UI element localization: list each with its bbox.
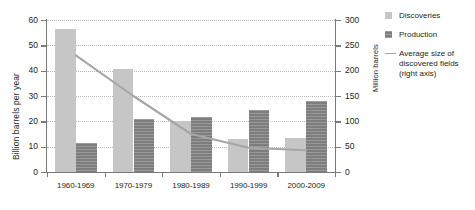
legend-label-average-size: Average size of discovered fields (right… <box>399 49 459 79</box>
legend-label-average-size-line2: discovered fields <box>399 59 459 69</box>
y-axis-right-tick <box>335 96 341 97</box>
y-axis-left-tick-label: 0 <box>33 168 38 177</box>
x-axis-tick-label: 1990-1999 <box>220 181 278 190</box>
x-axis-tick <box>47 172 48 177</box>
x-axis-tick-label: 2000-2009 <box>277 181 335 190</box>
y-axis-left-tick-label: 40 <box>29 66 38 75</box>
x-axis-tick-label: 1980-1989 <box>162 181 220 190</box>
y-axis-right-tick-label: 200 <box>345 66 359 75</box>
legend-item-production: Production <box>385 30 473 40</box>
y-axis-right-tick <box>335 121 341 122</box>
y-axis-right-tick <box>335 71 341 72</box>
y-axis-right-tick <box>335 45 341 46</box>
plot-area <box>47 20 335 172</box>
x-axis-tick <box>162 172 163 177</box>
x-axis-line <box>46 172 336 173</box>
y-axis-left-tick-label: 50 <box>29 41 38 50</box>
y-axis-right-tick-label: 50 <box>345 142 354 151</box>
legend-label-average-size-line1: Average size of <box>399 49 459 59</box>
y-axis-left-title: Billion barrels per year <box>11 73 21 160</box>
y-axis-left-tick-label: 20 <box>29 117 38 126</box>
y-axis-right-tick-label: 300 <box>345 16 359 25</box>
legend-label-average-size-line3: (right axis) <box>399 69 459 79</box>
y-axis-left-tick-label: 10 <box>29 142 38 151</box>
legend-swatch-production-icon <box>385 31 392 38</box>
legend-item-discoveries: Discoveries <box>385 11 473 21</box>
y-axis-left-tick-label: 60 <box>29 16 38 25</box>
y-axis-right-tick-label: 0 <box>345 168 350 177</box>
y-axis-left-tick-label: 30 <box>29 92 38 101</box>
x-axis-tick-label: 1970-1979 <box>105 181 163 190</box>
y-axis-right-tick <box>335 20 341 21</box>
x-axis-tick-label: 1960-1969 <box>47 181 105 190</box>
legend-item-average-size: Average size of discovered fields (right… <box>385 49 473 79</box>
legend-label-production: Production <box>399 30 437 40</box>
y-axis-right-tick-label: 250 <box>345 41 359 50</box>
x-axis-tick <box>335 172 336 177</box>
y-axis-right-tick-label: 100 <box>345 117 359 126</box>
legend-label-discoveries: Discoveries <box>399 11 440 21</box>
legend-line-swatch-icon <box>385 53 396 54</box>
y-axis-right-title: Million barrels <box>371 44 380 92</box>
trend-line-series <box>47 20 335 172</box>
x-axis-tick <box>220 172 221 177</box>
chart-figure: Billion barrels per year Million barrels… <box>0 0 475 210</box>
x-axis-tick <box>105 172 106 177</box>
legend-swatch-discoveries-icon <box>385 12 392 19</box>
y-axis-right-tick-label: 150 <box>345 92 359 101</box>
chart-legend: Discoveries Production Average size of d… <box>385 11 473 88</box>
y-axis-right-tick <box>335 147 341 148</box>
x-axis-tick <box>277 172 278 177</box>
